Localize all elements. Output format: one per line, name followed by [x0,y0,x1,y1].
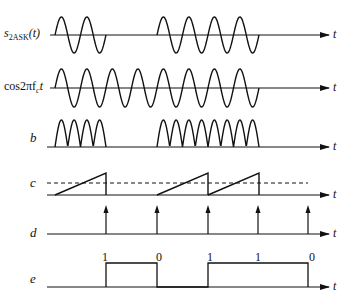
bit-label: 0 [309,250,315,265]
bit-label: 1 [207,250,213,265]
row-label-c: c [30,175,36,191]
row-label-s2ask: s2ASK(t) [4,26,40,42]
impulse-arrow-icon [104,205,109,213]
integrator-ramp [55,173,259,195]
impulse-arrow-icon [256,205,261,213]
impulse-arrow-icon [306,205,311,213]
axis-label-t-6: t [333,279,336,294]
rectified-waveform [55,120,259,147]
impulse-arrow-icon [206,205,211,213]
axis-label-t-4: t [333,187,336,202]
row-label-b: b [30,130,37,146]
row-label-d: d [30,225,37,241]
axis-label-t-2: t [333,80,336,95]
axis-label-t-5: t [333,226,336,241]
decision-output [106,263,308,287]
axis-label-t-1: t [333,27,336,42]
row-label-e: e [30,271,36,287]
bit-label: 1 [255,250,261,265]
impulse-arrow-icon [155,205,160,213]
axis-label-t-3: t [333,139,336,154]
bit-label: 1 [102,250,108,265]
waveform-diagram [0,0,352,307]
row-label-carrier: cos2πfct [4,79,43,95]
bit-label: 0 [156,250,162,265]
